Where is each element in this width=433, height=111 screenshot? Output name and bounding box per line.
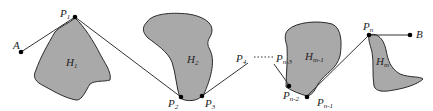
label-p2: P2	[167, 97, 179, 111]
label-p3: P3	[204, 97, 216, 111]
label-a: A	[12, 39, 20, 51]
point-pn1	[305, 95, 310, 100]
label-p4: P4	[235, 52, 247, 66]
label-p1: P1	[59, 7, 70, 21]
label-pn: Pn	[362, 20, 374, 34]
diagram-svg: A P1 P2 P3 P4 Pn-3 Pn-2 Pn-1 Pn B H1 H2 …	[0, 0, 433, 111]
point-p2	[179, 95, 184, 100]
point-p3	[200, 94, 205, 99]
point-b	[408, 33, 413, 38]
point-pn2	[287, 84, 292, 89]
obstacle-path-diagram: A P1 P2 P3 P4 Pn-3 Pn-2 Pn-1 Pn B H1 H2 …	[0, 0, 433, 111]
point-p1	[73, 15, 78, 20]
obstacle-h2	[143, 13, 212, 100]
label-pn1: Pn-1	[316, 96, 333, 110]
label-b: B	[416, 28, 423, 40]
